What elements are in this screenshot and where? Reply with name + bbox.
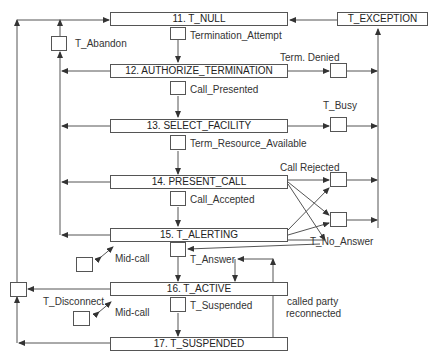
label-termination-attempt: Termination_Attempt [190, 30, 282, 41]
dp-box-t-disconnect [10, 282, 27, 297]
label-t-disconnect: T_Disconnect [43, 296, 104, 307]
state-label: 17. T_SUSPENDED [154, 338, 244, 349]
state-label: 11. T_NULL [173, 13, 226, 24]
label-mid-call-2: Mid-call [115, 307, 149, 318]
state-label: 14. PRESENT_CALL [152, 176, 247, 187]
dp-box-t-abandon [51, 36, 67, 51]
label-call-rejected: Call Rejected [280, 162, 339, 173]
state-present-call: 14. PRESENT_CALL [110, 175, 288, 189]
state-t-null: 11. T_NULL [110, 12, 288, 26]
label-term-denied: Term. Denied [280, 52, 339, 63]
dp-box-t-suspended [170, 297, 186, 312]
dp-box-mid-call-1 [76, 257, 93, 272]
dp-box-t-busy [330, 117, 347, 132]
dp-box-call-presented [170, 81, 186, 95]
dp-box-term-denied [330, 63, 347, 78]
label-term-resource-available: Term_Resource_Available [190, 138, 307, 149]
label-t-abandon: T_Abandon [75, 38, 127, 49]
state-t-exception: T_EXCEPTION [337, 12, 428, 26]
state-t-suspended: 17. T_SUSPENDED [110, 337, 288, 351]
label-called-party-reconnected-1: called party [287, 296, 338, 307]
label-t-answer: T_Answer [190, 254, 235, 265]
state-label: T_EXCEPTION [348, 13, 417, 24]
dp-box-call-rejected [330, 172, 347, 187]
label-call-accepted: Call_Accepted [190, 194, 254, 205]
dp-box-t-answer [170, 242, 186, 257]
state-label: 16. T_ACTIVE [167, 283, 231, 294]
state-t-alerting: 15. T_ALERTING [110, 228, 288, 242]
state-label: 15. T_ALERTING [160, 229, 238, 240]
bcsm-diagram: 11. T_NULL 12. AUTHORIZE_TERMINATION 13.… [0, 0, 439, 364]
dp-box-termination-attempt [170, 27, 186, 40]
label-mid-call-1: Mid-call [115, 253, 149, 264]
state-authorize-termination: 12. AUTHORIZE_TERMINATION [110, 64, 288, 78]
state-select-facility: 13. SELECT_FACILITY [110, 119, 288, 133]
state-t-active: 16. T_ACTIVE [110, 282, 288, 296]
label-t-no-answer: T_No_Answer [310, 236, 373, 247]
dp-box-t-no-answer [330, 212, 347, 227]
dp-box-mid-call-2 [73, 311, 90, 326]
state-label: 13. SELECT_FACILITY [147, 120, 252, 131]
dp-box-term-resource-available [170, 135, 186, 150]
label-t-busy: T_Busy [323, 100, 357, 111]
dp-box-call-accepted [170, 191, 186, 206]
label-t-suspended: T_Suspended [190, 300, 252, 311]
label-call-presented: Call_Presented [190, 84, 258, 95]
label-called-party-reconnected-2: reconnected [286, 308, 341, 319]
state-label: 12. AUTHORIZE_TERMINATION [125, 65, 273, 76]
